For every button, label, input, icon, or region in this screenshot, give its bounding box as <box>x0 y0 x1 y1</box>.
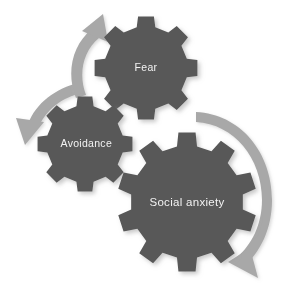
gear-fear-label: Fear <box>135 61 158 73</box>
arrow-upper-left <box>71 14 108 98</box>
gear-avoidance-label: Avoidance <box>61 137 113 149</box>
gear-cycle-diagram: Fear Avoidance Social anxiety <box>0 0 300 287</box>
gear-social-anxiety-label: Social anxiety <box>149 196 224 208</box>
gear-avoidance[interactable]: Avoidance <box>38 97 133 192</box>
gear-fear[interactable]: Fear <box>95 17 198 120</box>
diagram-canvas: Fear Avoidance Social anxiety <box>0 0 300 287</box>
gear-social-anxiety[interactable]: Social anxiety <box>118 133 255 272</box>
